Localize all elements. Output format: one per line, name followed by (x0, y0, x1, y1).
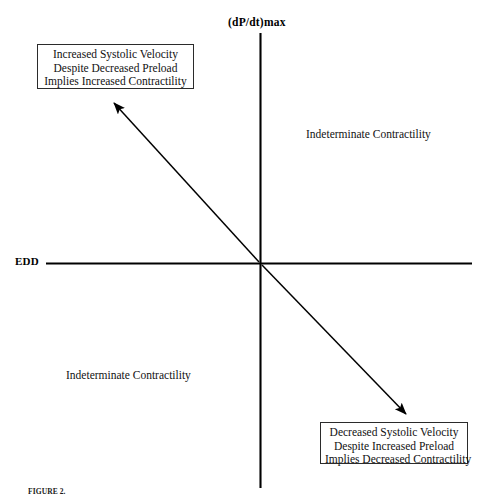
callout-box-decreased-contractility: Decreased Systolic Velocity Despite Incr… (320, 422, 468, 464)
callout-box-increased-contractility: Increased Systolic Velocity Despite Decr… (37, 44, 194, 89)
callout-line: Decreased Systolic Velocity (325, 426, 463, 440)
callout-line: Despite Increased Preload (325, 440, 463, 454)
lower-right-arrow (262, 265, 406, 414)
figure-caption: FIGURE 2. (28, 487, 478, 497)
upper-left-arrow (114, 103, 259, 262)
callout-line: Despite Decreased Preload (42, 62, 189, 76)
callout-line: Implies Increased Contractility (42, 75, 189, 89)
callout-line: Increased Systolic Velocity (42, 48, 189, 62)
figure-caption-lead: FIGURE 2. (28, 487, 66, 496)
figure-container: (dP/dt)max EDD Increased Systolic Veloci… (0, 0, 491, 497)
quadrant-label-upper-right: Indeterminate Contractility (306, 128, 431, 140)
x-axis-label: EDD (15, 255, 39, 267)
callout-line: Implies Decreased Contractility (325, 453, 463, 467)
y-axis-label: (dP/dt)max (228, 16, 286, 28)
quadrant-label-lower-left: Indeterminate Contractility (66, 369, 191, 381)
